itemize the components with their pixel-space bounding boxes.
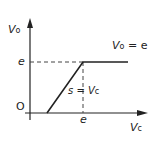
y-axis-arrow-icon <box>27 18 33 28</box>
y-axis-label: Vo <box>8 24 20 35</box>
curve-label: Vo = e <box>112 40 147 51</box>
x-axis-label: Vc <box>130 122 142 133</box>
x-tick-label: e <box>80 114 87 125</box>
slope-label: s = Vc <box>68 86 99 96</box>
y-tick-label: e <box>18 56 25 67</box>
x-axis-arrow-icon <box>137 110 148 116</box>
origin-label: O <box>16 101 25 112</box>
